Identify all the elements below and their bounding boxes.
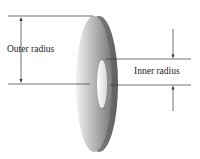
arrow-up-icon [172,86,175,90]
outer-radius-label: Outer radius [7,44,54,54]
arrow-down-icon [20,79,23,83]
washer-diagram [0,0,200,159]
inner-radius-label: Inner radius [134,66,180,76]
arrow-down-icon [172,55,175,59]
washer-hole [97,60,107,108]
arrow-up-icon [20,17,23,21]
